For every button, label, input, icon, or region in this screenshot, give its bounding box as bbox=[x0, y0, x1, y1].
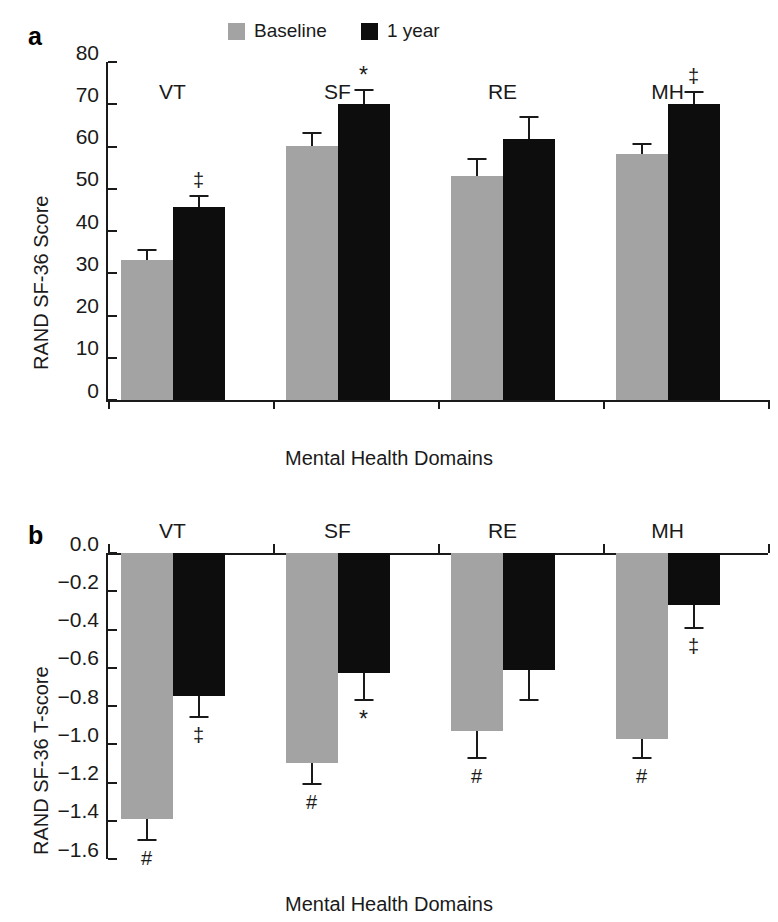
x-category-label-vt: VT bbox=[159, 80, 186, 104]
bar-mh-baseline bbox=[616, 154, 668, 400]
y-tick-label: −0.4 bbox=[58, 609, 108, 630]
significance-marker-vt-1-year: ‡ bbox=[193, 725, 204, 745]
bar-mh-1-year bbox=[668, 553, 720, 605]
y-tick-mark bbox=[108, 315, 117, 317]
error-bar bbox=[528, 117, 530, 139]
x-category-label-mh: MH bbox=[651, 519, 684, 543]
y-tick-mark bbox=[108, 667, 117, 669]
significance-marker-vt-1-year: ‡ bbox=[193, 170, 204, 190]
error-bar-cap bbox=[519, 699, 538, 701]
error-bar bbox=[693, 92, 695, 105]
bar-re-1-year bbox=[503, 553, 555, 670]
y-tick-mark bbox=[108, 705, 117, 707]
y-tick-mark bbox=[108, 272, 117, 274]
error-bar-cap bbox=[632, 143, 651, 145]
error-bar bbox=[198, 196, 200, 207]
error-bar-cap bbox=[684, 627, 703, 629]
x-tick bbox=[438, 544, 440, 553]
error-bar bbox=[476, 159, 478, 176]
y-axis-title-b: RAND SF-36 T-score bbox=[30, 666, 53, 855]
y-tick-label: 0.0 bbox=[70, 532, 108, 553]
error-bar bbox=[311, 133, 313, 146]
error-bar bbox=[146, 819, 148, 840]
error-bar-cap bbox=[467, 158, 486, 160]
error-bar-cap bbox=[302, 132, 321, 134]
plot-area-a: 01020304050607080VT‡SF*REMH‡ bbox=[108, 62, 768, 400]
x-axis-line bbox=[106, 400, 768, 402]
legend-label-baseline: Baseline bbox=[254, 20, 327, 42]
y-tick-label: −1.6 bbox=[58, 838, 108, 859]
y-tick-label: −1.4 bbox=[58, 800, 108, 821]
bar-vt-baseline bbox=[121, 260, 173, 400]
error-bar-cap bbox=[684, 91, 703, 93]
error-bar bbox=[146, 250, 148, 260]
legend: Baseline 1 year bbox=[228, 20, 440, 42]
y-tick-mark bbox=[108, 61, 117, 63]
bar-vt-baseline bbox=[121, 553, 173, 819]
y-tick-mark bbox=[108, 782, 117, 784]
y-tick-mark bbox=[108, 858, 117, 860]
y-tick-mark bbox=[108, 820, 117, 822]
legend-entry-baseline: Baseline bbox=[228, 20, 327, 42]
significance-marker-sf-1-year: * bbox=[359, 708, 368, 731]
bar-sf-1-year bbox=[338, 104, 390, 400]
panel-a: a Baseline 1 year 01020304050607080VT‡SF… bbox=[0, 0, 778, 478]
significance-marker-mh-1-year: ‡ bbox=[688, 66, 699, 86]
y-tick-mark bbox=[108, 188, 117, 190]
error-bar-cap bbox=[354, 699, 373, 701]
y-tick-mark bbox=[108, 103, 117, 105]
x-tick bbox=[768, 400, 770, 409]
error-bar bbox=[693, 605, 695, 628]
y-axis-title-a: RAND SF-36 Score bbox=[30, 196, 53, 371]
panel-a-letter: a bbox=[28, 22, 42, 51]
error-bar bbox=[198, 696, 200, 717]
y-tick-mark bbox=[108, 146, 117, 148]
error-bar-cap bbox=[189, 195, 208, 197]
error-bar bbox=[363, 90, 365, 104]
x-axis-title-a: Mental Health Domains bbox=[0, 447, 778, 470]
y-tick-label: 50 bbox=[76, 168, 108, 189]
y-tick-mark bbox=[108, 357, 117, 359]
significance-marker-mh-baseline: # bbox=[636, 766, 647, 786]
y-tick-label: 30 bbox=[76, 252, 108, 273]
y-tick-label: −1.2 bbox=[58, 762, 108, 783]
y-tick-mark bbox=[108, 743, 117, 745]
y-tick-label: −0.2 bbox=[58, 570, 108, 591]
x-category-label-re: RE bbox=[488, 519, 517, 543]
x-category-label-sf: SF bbox=[324, 519, 351, 543]
error-bar bbox=[528, 670, 530, 701]
x-tick bbox=[603, 544, 605, 553]
y-tick-label: 10 bbox=[76, 337, 108, 358]
y-tick-mark bbox=[108, 590, 117, 592]
x-axis-title-b: Mental Health Domains bbox=[0, 893, 778, 916]
y-tick-label: −1.0 bbox=[58, 723, 108, 744]
y-tick-label: 60 bbox=[76, 126, 108, 147]
x-category-label-vt: VT bbox=[159, 519, 186, 543]
y-tick-label: 20 bbox=[76, 295, 108, 316]
x-tick bbox=[273, 400, 275, 409]
significance-marker-vt-baseline: # bbox=[141, 848, 152, 868]
significance-marker-sf-1-year: * bbox=[359, 64, 368, 87]
error-bar bbox=[363, 673, 365, 700]
significance-marker-re-baseline: # bbox=[471, 766, 482, 786]
x-category-label-mh: MH bbox=[651, 80, 684, 104]
x-tick bbox=[603, 400, 605, 409]
bar-vt-1-year bbox=[173, 553, 225, 696]
error-bar-cap bbox=[302, 783, 321, 785]
error-bar bbox=[311, 763, 313, 784]
x-tick bbox=[273, 544, 275, 553]
legend-swatch-1-year bbox=[361, 23, 378, 40]
y-tick-label: −0.6 bbox=[58, 647, 108, 668]
y-tick-label: −0.8 bbox=[58, 685, 108, 706]
error-bar-cap bbox=[467, 757, 486, 759]
bar-mh-1-year bbox=[668, 104, 720, 400]
figure-root: a Baseline 1 year 01020304050607080VT‡SF… bbox=[0, 0, 778, 922]
error-bar-cap bbox=[519, 116, 538, 118]
y-tick-label: 0 bbox=[87, 379, 108, 400]
error-bar bbox=[476, 731, 478, 758]
x-tick bbox=[768, 544, 770, 553]
panel-b-letter: b bbox=[28, 521, 43, 550]
bar-re-1-year bbox=[503, 139, 555, 400]
plot-area-b: 0.0−0.2−0.4−0.6−0.8−1.0−1.2−1.4−1.6VT#‡S… bbox=[108, 553, 768, 859]
error-bar bbox=[641, 739, 643, 758]
